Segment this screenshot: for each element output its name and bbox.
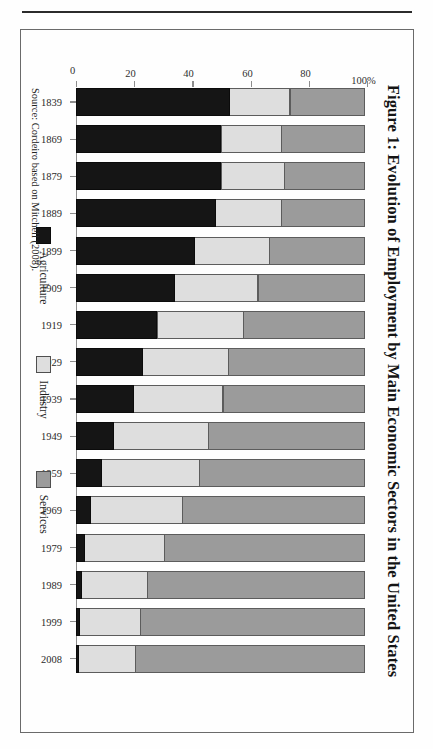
source-note: Source: Cordeiro based on Mitchell (2008… <box>30 88 41 271</box>
bar-segment-agriculture <box>76 88 230 116</box>
bar-segment-services <box>281 199 365 227</box>
category-tick <box>70 176 76 177</box>
bar-segment-services <box>223 385 366 413</box>
bar-column: 1839 <box>76 88 367 116</box>
bar-segment-agriculture <box>76 162 222 190</box>
value-axis-tick-label: 40 <box>184 68 195 79</box>
bar-segment-services <box>147 571 365 599</box>
bar-segment-industry <box>84 534 165 562</box>
figure-page: Figure 1: Evolution of Employment by Mai… <box>0 0 433 749</box>
stacked-bar-series: 1839186918791889189919091919192919391949… <box>76 88 367 673</box>
category-tick <box>70 213 76 214</box>
bar-segment-industry <box>221 162 285 190</box>
bar-segment-industry <box>81 571 148 599</box>
bar-segment-agriculture <box>76 645 79 673</box>
bar-segment-agriculture <box>76 199 216 227</box>
bar-segment-industry <box>142 348 229 376</box>
bar-column: 1919 <box>76 311 367 339</box>
figure-frame: Figure 1: Evolution of Employment by Mai… <box>20 29 414 733</box>
plot-area: 100%806040200 18391869187918891899190919… <box>76 88 367 673</box>
bar-segment-industry <box>90 496 183 524</box>
bar-segment-agriculture <box>76 348 143 376</box>
bar-segment-agriculture <box>76 274 175 302</box>
category-tick <box>70 436 76 437</box>
bar-segment-industry <box>79 608 140 636</box>
bar-segment-services <box>135 645 365 673</box>
bar-segment-industry <box>221 125 282 153</box>
bar-segment-services <box>281 125 365 153</box>
bar-segment-industry <box>157 311 244 339</box>
bar-segment-services <box>290 88 366 116</box>
bar-segment-agriculture <box>76 311 157 339</box>
category-tick <box>70 510 76 511</box>
bar-segment-services <box>208 422 365 450</box>
value-axis-tick <box>76 81 77 87</box>
value-axis-tick <box>251 81 252 87</box>
bar-segment-services <box>228 348 365 376</box>
bar-segment-services <box>140 608 366 636</box>
bar-segment-services <box>269 237 365 265</box>
value-axis-tick <box>309 81 310 87</box>
category-tick <box>70 287 76 288</box>
bar-segment-industry <box>215 199 282 227</box>
plot-inner: 100%806040200 18391869187918891899190919… <box>76 88 367 673</box>
bar-segment-industry <box>113 422 209 450</box>
bar-segment-agriculture <box>76 534 85 562</box>
bar-segment-services <box>258 274 366 302</box>
figure-canvas: Figure 1: Evolution of Employment by Mai… <box>21 30 413 732</box>
category-tick <box>70 473 76 474</box>
value-axis-tick-label: 60 <box>242 68 253 79</box>
value-axis-tick-label: 100% <box>351 75 376 86</box>
value-axis-tick-label: 20 <box>125 68 136 79</box>
bar-segment-agriculture <box>76 496 91 524</box>
legend-swatch-industry <box>37 356 52 373</box>
value-axis-tick <box>192 81 193 87</box>
page-top-rule <box>22 11 412 13</box>
bar-segment-services <box>243 311 365 339</box>
category-tick <box>70 101 76 102</box>
bar-segment-industry <box>229 88 290 116</box>
bar-column: 1989 <box>76 571 367 599</box>
bar-column: 1929 <box>76 348 367 376</box>
bar-segment-agriculture <box>76 125 222 153</box>
bar-segment-industry <box>78 645 136 673</box>
category-tick <box>70 250 76 251</box>
bar-column: 1869 <box>76 125 367 153</box>
category-tick <box>70 584 76 585</box>
bar-segment-services <box>199 459 365 487</box>
category-tick <box>70 324 76 325</box>
legend-label: Industry <box>38 380 50 418</box>
category-tick <box>70 658 76 659</box>
category-tick <box>70 398 76 399</box>
bar-column: 1949 <box>76 422 367 450</box>
legend-industry: Industry <box>37 356 52 418</box>
legend-swatch-services <box>37 471 52 488</box>
bar-segment-industry <box>174 274 258 302</box>
category-tick <box>70 547 76 548</box>
bar-segment-agriculture <box>76 385 134 413</box>
bar-segment-industry <box>194 237 270 265</box>
bar-segment-industry <box>101 459 200 487</box>
bar-segment-services <box>182 496 365 524</box>
bar-segment-agriculture <box>76 422 114 450</box>
legend-services: Services <box>37 471 52 534</box>
bar-segment-industry <box>133 385 223 413</box>
bar-segment-services <box>284 162 365 190</box>
rotated-figure-content: Figure 1: Evolution of Employment by Mai… <box>21 30 413 732</box>
figure-title: Figure 1: Evolution of Employment by Mai… <box>383 30 403 732</box>
bar-column: 1999 <box>76 608 367 636</box>
bar-column: 1899 <box>76 237 367 265</box>
category-tick <box>70 361 76 362</box>
bar-segment-agriculture <box>76 459 102 487</box>
bar-segment-agriculture <box>76 571 82 599</box>
value-axis-tick-label: 0 <box>70 65 75 76</box>
category-tick <box>70 621 76 622</box>
bar-column: 1969 <box>76 496 367 524</box>
bar-column: 1889 <box>76 199 367 227</box>
bar-segment-agriculture <box>76 608 80 636</box>
bar-column: 1979 <box>76 534 367 562</box>
value-axis-tick-label: 80 <box>300 68 311 79</box>
bar-segment-services <box>164 534 365 562</box>
bar-column: 1939 <box>76 385 367 413</box>
bar-column: 2008 <box>76 645 367 673</box>
